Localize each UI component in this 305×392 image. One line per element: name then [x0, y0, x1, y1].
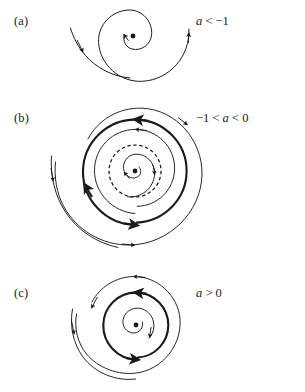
figure-root: (a) a < −1 (b) −1 < a <: [0, 0, 305, 392]
panel-c-arrow-outer-left: [92, 297, 98, 307]
panel-c-equilibrium-point: [134, 323, 139, 328]
panel-b-equilibrium-point: [133, 169, 138, 174]
panel-c-inner-outward-spiral: [123, 308, 154, 338]
panel-a-arrow-right: [188, 34, 189, 43]
panel-b: (b) −1 < a < 0: [0, 100, 305, 265]
panel-b-arrow-middle-top: [137, 129, 148, 130]
panel-c: (c) a > 0: [0, 265, 305, 392]
panel-b-arrow-cycle-top: [137, 120, 149, 121]
panel-b-arrow-inner-left: [125, 173, 130, 179]
panel-c-plot: [0, 265, 305, 392]
panel-a-plot: [0, 0, 305, 100]
panel-b-inner-outward-spiral: [123, 154, 154, 197]
panel-a-equilibrium-point: [131, 34, 136, 39]
panel-c-arrow-cycle-top: [137, 293, 147, 294]
panel-a: (a) a < −1: [0, 0, 305, 100]
panel-b-plot: [0, 100, 305, 265]
panel-a-outward-spiral: [99, 10, 189, 81]
panel-c-arrow-cycle-bottom: [127, 358, 137, 359]
panel-c-arrow-outer-top: [135, 277, 146, 278]
panel-a-arrow-inner: [125, 35, 129, 40]
